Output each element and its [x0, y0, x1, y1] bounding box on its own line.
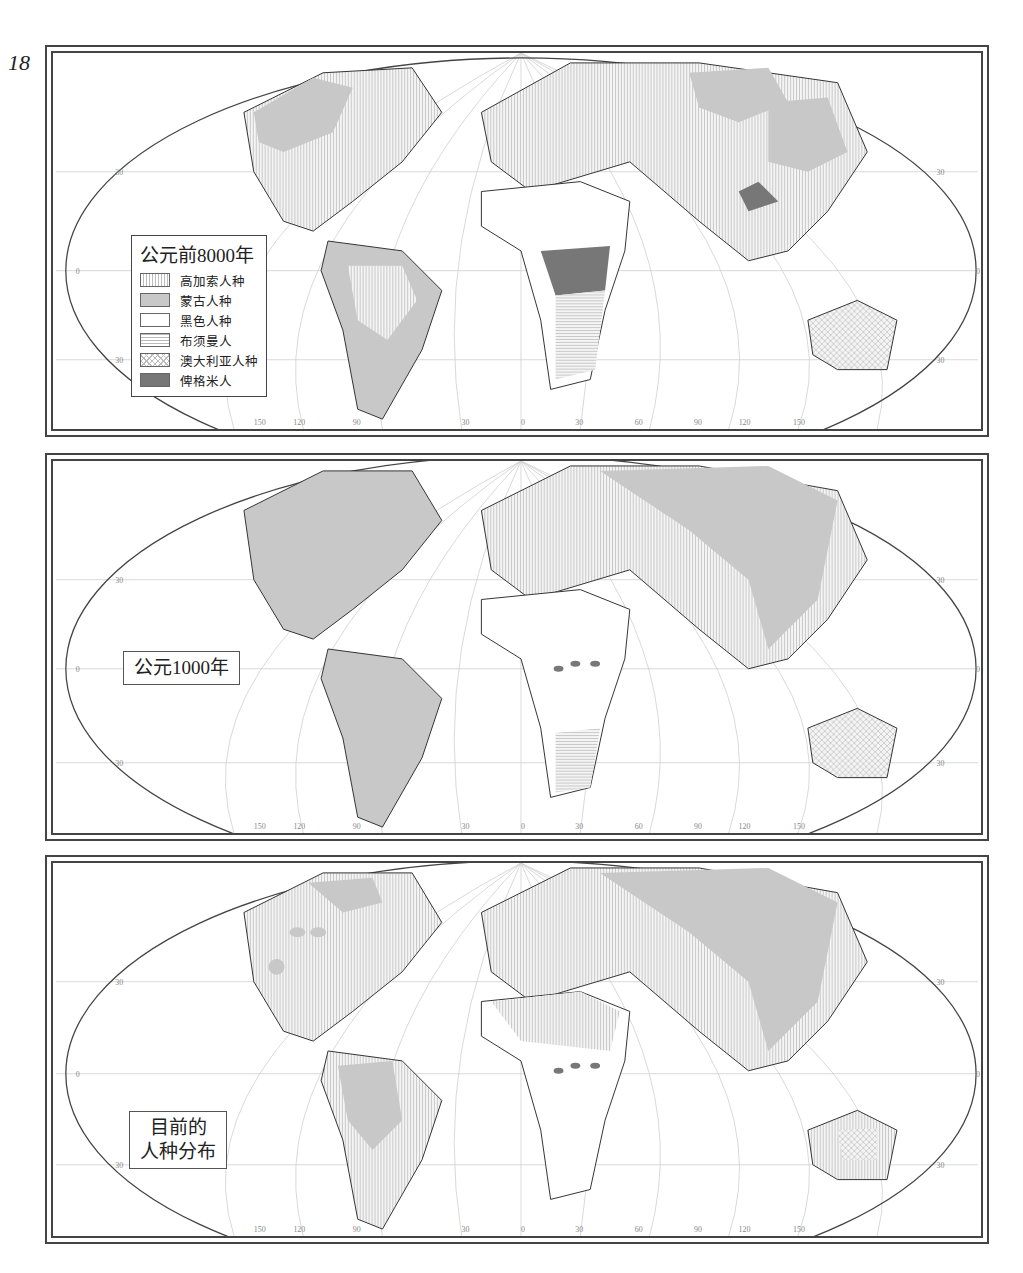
- cross-hatch-swatch-icon: [140, 353, 170, 367]
- legend-item-bushman: 布须曼人: [140, 330, 258, 350]
- horizontal-hatch-swatch-icon: [140, 333, 170, 347]
- svg-text:90: 90: [694, 418, 702, 427]
- svg-text:120: 120: [739, 418, 751, 427]
- map-frame: 15012090 30030 6090120 150 30030 30030 公…: [51, 51, 983, 431]
- map-panel-present: 15012090 30030 6090120 150 30030 30030 目…: [45, 855, 989, 1244]
- svg-text:120: 120: [293, 822, 305, 831]
- svg-text:0: 0: [976, 1070, 980, 1079]
- svg-text:30: 30: [936, 759, 944, 768]
- map-panel-1000ad: 15012090 30030 6090120 150 30030 30030 公…: [45, 453, 989, 841]
- svg-text:0: 0: [976, 665, 980, 674]
- svg-text:0: 0: [76, 267, 80, 276]
- page-number: 18: [8, 50, 30, 76]
- svg-text:150: 150: [254, 1225, 266, 1234]
- period-label-line2: 人种分布: [140, 1140, 216, 1164]
- legend: 公元前8000年 高加索人种 蒙古人种 黑色人种 布须曼人 澳大利亚人种: [131, 235, 267, 397]
- svg-text:150: 150: [793, 822, 805, 831]
- period-label-present: 目前的 人种分布: [129, 1111, 227, 1169]
- svg-text:0: 0: [521, 1225, 525, 1234]
- svg-text:30: 30: [115, 1161, 123, 1170]
- legend-label: 俾格米人: [180, 371, 232, 390]
- svg-text:30: 30: [462, 1225, 470, 1234]
- svg-text:150: 150: [793, 418, 805, 427]
- svg-text:90: 90: [353, 1225, 361, 1234]
- svg-text:150: 150: [254, 822, 266, 831]
- svg-text:60: 60: [635, 418, 643, 427]
- legend-item-mongoloid: 蒙古人种: [140, 290, 258, 310]
- svg-text:120: 120: [293, 418, 305, 427]
- svg-text:90: 90: [353, 418, 361, 427]
- svg-text:120: 120: [739, 822, 751, 831]
- legend-label: 蒙古人种: [180, 291, 232, 310]
- world-map-present: 15012090 30030 6090120 150 30030 30030: [53, 863, 981, 1236]
- map-frame: 15012090 30030 6090120 150 30030 30030 公…: [51, 459, 983, 835]
- period-label-1000ad: 公元1000年: [123, 651, 240, 685]
- svg-text:30: 30: [115, 168, 123, 177]
- white-swatch-icon: [140, 313, 170, 327]
- svg-text:30: 30: [575, 1225, 583, 1234]
- svg-text:30: 30: [115, 356, 123, 365]
- legend-label: 高加索人种: [180, 271, 245, 290]
- svg-text:30: 30: [937, 356, 945, 365]
- legend-label: 布须曼人: [180, 331, 232, 350]
- svg-text:150: 150: [254, 418, 266, 427]
- vertical-hatch-swatch-icon: [140, 273, 170, 287]
- svg-text:30: 30: [115, 576, 123, 585]
- map-frame: 15012090 30030 6090120 150 30030 30030 目…: [51, 861, 983, 1238]
- svg-text:0: 0: [76, 1070, 80, 1079]
- svg-text:0: 0: [76, 665, 80, 674]
- svg-text:90: 90: [694, 1225, 702, 1234]
- svg-text:30: 30: [115, 759, 123, 768]
- world-map-1000ad: 15012090 30030 6090120 150 30030 30030: [53, 461, 981, 833]
- svg-text:30: 30: [115, 978, 123, 987]
- legend-title: 公元前8000年: [140, 240, 258, 267]
- svg-text:120: 120: [293, 1225, 305, 1234]
- svg-text:30: 30: [937, 1161, 945, 1170]
- legend-item-caucasoid: 高加索人种: [140, 270, 258, 290]
- legend-label: 澳大利亚人种: [180, 351, 258, 370]
- svg-text:120: 120: [739, 1225, 751, 1234]
- svg-text:30: 30: [936, 576, 944, 585]
- svg-text:0: 0: [521, 418, 525, 427]
- svg-text:60: 60: [635, 822, 643, 831]
- svg-text:30: 30: [937, 978, 945, 987]
- svg-text:30: 30: [462, 418, 470, 427]
- svg-text:90: 90: [353, 822, 361, 831]
- svg-text:0: 0: [521, 822, 525, 831]
- legend-item-negroid: 黑色人种: [140, 310, 258, 330]
- svg-text:30: 30: [937, 168, 945, 177]
- svg-text:0: 0: [976, 267, 980, 276]
- svg-text:30: 30: [575, 418, 583, 427]
- period-label-line1: 目前的: [140, 1116, 216, 1140]
- svg-text:30: 30: [575, 822, 583, 831]
- gray-swatch-icon: [140, 293, 170, 307]
- dark-gray-swatch-icon: [140, 373, 170, 387]
- svg-text:90: 90: [694, 822, 702, 831]
- svg-text:150: 150: [793, 1225, 805, 1234]
- svg-text:30: 30: [462, 822, 470, 831]
- map-panel-8000bc: 15012090 30030 6090120 150 30030 30030 公…: [45, 45, 989, 437]
- legend-item-pygmy: 俾格米人: [140, 370, 258, 390]
- legend-label: 黑色人种: [180, 311, 232, 330]
- svg-text:60: 60: [635, 1225, 643, 1234]
- legend-item-australoid: 澳大利亚人种: [140, 350, 258, 370]
